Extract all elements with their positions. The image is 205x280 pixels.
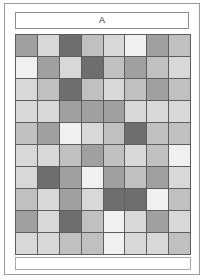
heatmap-cell [16,101,37,122]
heatmap-cell [82,35,103,56]
heatmap-cell [147,123,168,144]
heatmap-cell [104,35,125,56]
heatmap-cell [125,57,146,78]
heatmap-cell [104,233,125,254]
heatmap-cell [125,233,146,254]
heatmap-cell [125,101,146,122]
heatmap-cell [82,101,103,122]
heatmap-cell [125,35,146,56]
heatmap-cell [60,167,81,188]
heatmap-cell [60,123,81,144]
heatmap-cell [16,145,37,166]
heatmap-cell [16,35,37,56]
heatmap-cell [104,101,125,122]
heatmap-cell [38,233,59,254]
heatmap-cell [38,211,59,232]
heatmap-cell [125,211,146,232]
heatmap-cell [82,57,103,78]
heatmap-cell [169,189,190,210]
heatmap-cell [82,211,103,232]
heatmap-cell [38,167,59,188]
heatmap-grid [15,34,191,255]
heatmap-cell [125,167,146,188]
heatmap-cell [16,189,37,210]
heatmap-cell [82,145,103,166]
heatmap-cell [60,145,81,166]
heatmap-cell [104,145,125,166]
heatmap-cell [125,189,146,210]
heatmap-cell [38,189,59,210]
heatmap-cell [104,211,125,232]
heatmap-cell [16,57,37,78]
heatmap-cell [147,167,168,188]
heatmap-cell [169,123,190,144]
heatmap-cell [147,211,168,232]
heatmap-cell [104,189,125,210]
heatmap-cell [147,35,168,56]
heatmap-cell [169,101,190,122]
chart-title-box: A [15,12,189,29]
heatmap-cell [38,145,59,166]
chart-panel: A [4,3,200,275]
heatmap-cell [104,123,125,144]
heatmap-cell [60,233,81,254]
heatmap-cell [60,189,81,210]
heatmap-cell [147,189,168,210]
heatmap-cell [82,123,103,144]
heatmap-cell [169,35,190,56]
heatmap-cell [60,101,81,122]
heatmap-cell [147,101,168,122]
heatmap-cell [16,79,37,100]
chart-title-label: A [99,16,105,25]
heatmap-cell [169,79,190,100]
heatmap-container [15,34,191,255]
heatmap-cell [60,79,81,100]
heatmap-cell [16,167,37,188]
heatmap-cell [16,211,37,232]
heatmap-cell [82,79,103,100]
heatmap-cell [82,233,103,254]
heatmap-cell [16,233,37,254]
heatmap-cell [125,145,146,166]
heatmap-cell [104,57,125,78]
heatmap-cell [38,101,59,122]
heatmap-cell [147,145,168,166]
heatmap-cell [125,79,146,100]
heatmap-cell [60,57,81,78]
heatmap-cell [147,233,168,254]
heatmap-cell [82,167,103,188]
heatmap-cell [169,57,190,78]
heatmap-cell [169,211,190,232]
heatmap-cell [125,123,146,144]
heatmap-cell [104,167,125,188]
heatmap-cell [38,79,59,100]
heatmap-cell [60,211,81,232]
chart-footer-strip [15,257,191,270]
heatmap-cell [169,167,190,188]
heatmap-cell [60,35,81,56]
heatmap-cell [82,189,103,210]
heatmap-cell [147,79,168,100]
heatmap-cell [169,233,190,254]
heatmap-cell [169,145,190,166]
heatmap-cell [38,57,59,78]
heatmap-cell [147,57,168,78]
heatmap-cell [16,123,37,144]
heatmap-cell [38,35,59,56]
heatmap-cell [104,79,125,100]
heatmap-cell [38,123,59,144]
